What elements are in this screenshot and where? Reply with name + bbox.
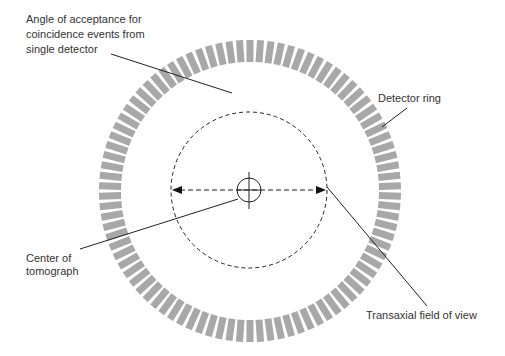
detector-segment bbox=[215, 43, 226, 66]
detector-segment bbox=[226, 318, 236, 341]
center-marker-icon bbox=[237, 172, 261, 209]
detector-segment bbox=[273, 316, 284, 339]
detector-segment bbox=[236, 319, 245, 341]
detector-segment bbox=[273, 43, 284, 66]
detector-ring-leader bbox=[382, 108, 407, 127]
label-angle-acceptance: Angle of acceptance for coincidence even… bbox=[26, 13, 148, 55]
detector-segment bbox=[101, 161, 124, 172]
detector-segment bbox=[376, 161, 399, 172]
detector-segment bbox=[256, 40, 265, 62]
detector-segment bbox=[378, 201, 401, 210]
detector-segment bbox=[101, 210, 124, 221]
detector-segment bbox=[264, 318, 274, 341]
detector-segment bbox=[376, 210, 399, 221]
label-center-of-tomograph: Center of tomograph bbox=[26, 252, 79, 277]
label-detector-ring: Detector ring bbox=[378, 92, 441, 104]
pet-ring-diagram: Angle of acceptance for coincidence even… bbox=[0, 0, 505, 356]
detector-segment bbox=[379, 192, 401, 200]
detector-segment bbox=[379, 182, 401, 190]
detector-segment bbox=[264, 41, 274, 64]
detector-segment bbox=[247, 320, 254, 342]
detector-segment bbox=[226, 41, 236, 64]
detector-segment bbox=[99, 172, 122, 181]
detector-segment bbox=[236, 40, 245, 62]
detector-segment bbox=[247, 40, 254, 62]
detector-segment bbox=[215, 316, 226, 339]
detector-segment bbox=[256, 319, 265, 341]
detector-segment bbox=[99, 192, 121, 200]
detector-segment bbox=[99, 201, 122, 210]
label-transaxial-fov: Transaxial field of view bbox=[366, 309, 477, 321]
detector-segment bbox=[99, 182, 121, 190]
detector-ring bbox=[99, 40, 401, 342]
detector-segment bbox=[378, 172, 401, 181]
